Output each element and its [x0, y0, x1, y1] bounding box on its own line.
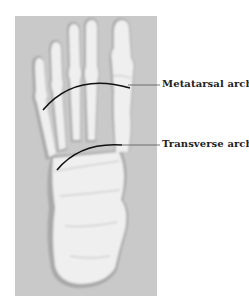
- transverse-arch-curve: [57, 145, 122, 170]
- annotation-layer: [0, 0, 249, 300]
- metatarsal-arch-curve: [43, 83, 130, 110]
- transverse-arch-label: Transverse arch: [162, 138, 249, 149]
- metatarsal-arch-label: Metatarsal arch: [162, 78, 249, 89]
